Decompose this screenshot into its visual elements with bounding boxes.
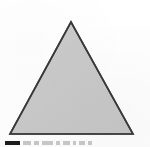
triangle-shape [10,22,133,134]
caption-text-fragment [42,141,53,145]
caption-text-fragment [34,141,39,145]
caption-line [0,141,150,147]
figure-page: Gray shaded triangle with dark outline [0,0,150,147]
caption-swatch [5,141,20,145]
caption-text-fragment [63,141,70,145]
caption-text-fragment [23,141,31,145]
caption-strip [0,141,150,147]
triangle-figure: Gray shaded triangle with dark outline [0,0,150,147]
caption-text-fragment [73,141,76,145]
caption-text-fragment [56,141,60,145]
caption-text-fragment [79,141,85,145]
caption-text-fragment [88,141,92,145]
